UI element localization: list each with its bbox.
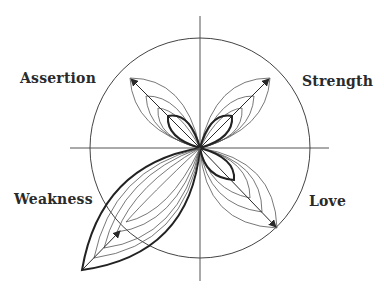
love-lobe [200, 148, 277, 228]
diagram-svg [0, 0, 384, 294]
weakness-lobe [82, 148, 200, 270]
label-love: Love [309, 193, 346, 209]
assertion-lobe [130, 78, 200, 148]
label-assertion: Assertion [20, 70, 96, 86]
label-strength: Strength [302, 73, 373, 89]
diagram-canvas: Assertion Strength Weakness Love [0, 0, 384, 294]
strength-lobe [200, 78, 270, 148]
label-weakness: Weakness [14, 191, 93, 207]
